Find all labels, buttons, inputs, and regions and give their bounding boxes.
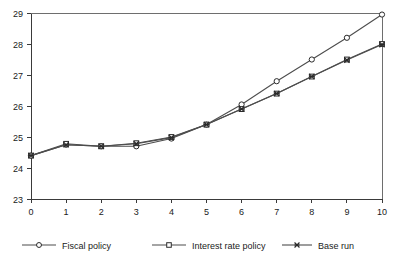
y-tick-label: 24	[13, 164, 23, 174]
marker-circle	[344, 35, 349, 40]
data-series-group	[28, 12, 384, 158]
line-chart: 29282726252423 012345678910 Fiscal polic…	[0, 0, 399, 261]
x-tick-label: 9	[344, 207, 349, 217]
legend-item-fiscal-policy[interactable]: Fiscal policy	[22, 241, 112, 251]
x-tick-label: 2	[99, 207, 104, 217]
plot-frame	[31, 13, 382, 199]
x-tick-label: 4	[169, 207, 174, 217]
chart-legend: Fiscal policyInterest rate policyBase ru…	[22, 241, 354, 251]
x-tick-label: 10	[377, 207, 387, 217]
legend-label: Interest rate policy	[192, 241, 266, 251]
y-tick-label: 29	[13, 9, 23, 19]
marker-circle	[37, 243, 42, 248]
x-tick-label: 5	[204, 207, 209, 217]
data-series-base-run	[28, 42, 384, 158]
legend-item-base-run[interactable]: Base run	[282, 241, 354, 251]
x-tick-label: 8	[309, 207, 314, 217]
legend-label: Fiscal policy	[62, 241, 112, 251]
marker-circle	[379, 12, 384, 17]
y-tick-label: 25	[13, 133, 23, 143]
x-tick-label: 3	[134, 207, 139, 217]
chart-canvas: 29282726252423 012345678910 Fiscal polic…	[0, 0, 399, 261]
x-tick-label: 0	[28, 207, 33, 217]
series-polyline	[31, 45, 382, 156]
x-tick-label: 7	[274, 207, 279, 217]
legend-item-interest-rate-policy[interactable]: Interest rate policy	[152, 241, 266, 251]
marker-star	[295, 243, 300, 248]
x-tick-label: 1	[64, 207, 69, 217]
legend-label: Base run	[318, 241, 354, 251]
y-tick-label: 27	[13, 71, 23, 81]
data-series-fiscal-policy	[28, 12, 384, 158]
y-tick-label: 28	[13, 40, 23, 50]
x-tick-label: 6	[239, 207, 244, 217]
marker-circle	[309, 57, 314, 62]
marker-circle	[274, 79, 279, 84]
data-series-interest-rate-policy	[29, 42, 385, 158]
y-axis-ticks: 29282726252423	[13, 9, 31, 205]
series-polyline	[31, 15, 382, 156]
marker-square	[167, 243, 172, 248]
y-tick-label: 26	[13, 102, 23, 112]
series-polyline	[31, 44, 382, 156]
y-tick-label: 23	[13, 195, 23, 205]
x-axis-ticks: 012345678910	[28, 199, 387, 217]
